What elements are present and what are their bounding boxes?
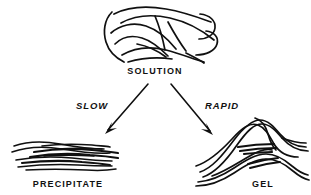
rapid-label: RAPID — [205, 100, 239, 111]
slow-label: SLOW — [76, 100, 108, 111]
slow-arrow-head — [105, 122, 117, 134]
rapid-arrow-head — [201, 123, 213, 135]
solution-coil-tangle — [104, 7, 217, 63]
polymer-transition-diagram: SOLUTION SLOW RAPID PRECIPITATE — [0, 0, 311, 195]
precipitate-label: PRECIPITATE — [33, 179, 103, 189]
slow-arrow — [105, 84, 148, 134]
solution-label: SOLUTION — [127, 66, 182, 76]
precipitate-fibril-bundle — [12, 142, 118, 170]
gel-network — [196, 118, 309, 186]
gel-label: GEL — [252, 179, 274, 189]
